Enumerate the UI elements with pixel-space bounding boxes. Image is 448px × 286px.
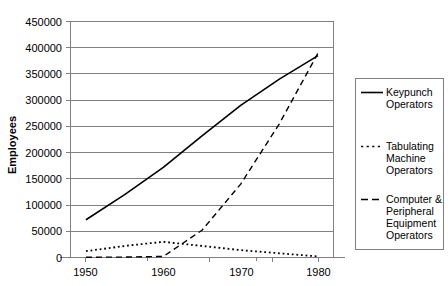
legend-label-line3: Equipment (386, 217, 436, 229)
y-tick-label-350000: 350000 (25, 68, 62, 80)
legend-label-line2: Peripheral (386, 205, 434, 217)
legend-label-line1: Computer & (386, 193, 442, 205)
x-tick-label-1960: 1960 (151, 266, 175, 278)
chart-canvas: Employees (0, 0, 448, 286)
x-tick-label-1980: 1980 (306, 266, 330, 278)
y-tick-label-150000: 150000 (25, 173, 62, 185)
y-tick-label-200000: 200000 (25, 147, 62, 159)
y-tick-label-50000: 50000 (31, 225, 62, 237)
y-tick-label-400000: 400000 (25, 42, 62, 54)
legend-label-line2: Operators (386, 98, 433, 110)
legend-label-line4: Operators (386, 229, 433, 241)
legend-label-line1: Keypunch (386, 86, 433, 98)
legend-label-line3: Operators (386, 164, 433, 176)
y-tick-label-300000: 300000 (25, 94, 62, 106)
y-tick-label-250000: 250000 (25, 120, 62, 132)
chart-legend[interactable]: Keypunch Operators Tabulating Machine Op… (356, 79, 444, 250)
y-tick-label-100000: 100000 (25, 199, 62, 211)
y-tick-label-450000: 450000 (25, 16, 62, 28)
y-tick-label-0: 0 (56, 252, 62, 264)
y-axis-title: Employees (6, 116, 18, 174)
legend-label-line1: Tabulating (386, 140, 434, 152)
legend-label-line2: Machine (386, 152, 426, 164)
x-tick-label-1950: 1950 (73, 266, 97, 278)
line-chart: Employees (0, 0, 448, 286)
x-tick-label-1970: 1970 (229, 266, 253, 278)
